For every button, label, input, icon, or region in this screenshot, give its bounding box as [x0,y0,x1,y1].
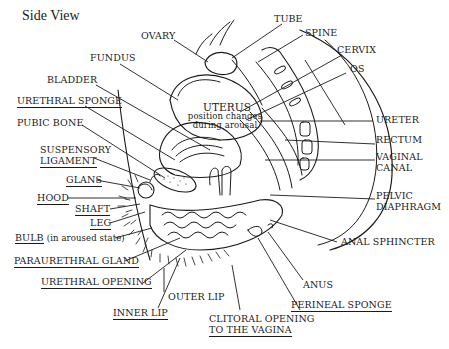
label-glans: GLANS [66,175,102,187]
label-spine: SPINE [305,28,337,39]
label-uterus-note-line2: during arousal [180,121,270,130]
label-clitoral-opening-line1: CLITORAL OPENING [209,314,314,325]
label-rectum: RECTUM [376,135,422,146]
label-outer-lip: OUTER LIP [168,292,225,303]
label-hood: HOOD [37,193,69,205]
label-inner-lip: INNER LIP [113,308,168,320]
label-pelvic-diaphragm-line2: DIAPHRAGM [376,202,441,213]
label-bladder: BLADDER [47,75,97,86]
label-urethral-sponge: URETHRAL SPONGE [17,96,122,108]
label-cervix: CERVIX [337,45,376,56]
label-leg: LEG [90,218,111,230]
anatomy-diagram: Side View OVARY TUBE SPINE CERVIX OS FUN… [0,0,449,349]
diagram-title: Side View [22,8,80,24]
label-os: OS [350,64,365,75]
label-paraurethral-gland: PARAURETHRAL GLAND [14,256,139,268]
label-clitoral-opening-line2: TO THE VAGINA [209,325,292,337]
label-anus: ANUS [303,280,333,291]
label-bulb-note: (in aroused state) [47,233,125,243]
label-pubic-bone: PUBIC BONE [17,118,83,129]
label-urethral-opening: URETHRAL OPENING [41,277,152,289]
label-vaginal-canal-line2: CANAL [376,163,412,174]
label-suspensory-ligament-line2: LIGAMENT [40,156,97,168]
label-fundus: FUNDUS [90,53,136,64]
label-ureter: URETER [376,115,419,126]
label-perineal-sponge: PERINEAL SPONGE [291,300,392,312]
label-tube: TUBE [274,14,303,25]
label-anal-sphincter: ANAL SPHINCTER [341,237,435,248]
label-bulb-text: BULB [15,232,44,244]
label-pelvic-diaphragm-line1: PELVIC [376,191,413,202]
label-bulb: BULB (in aroused state) [15,233,125,244]
label-ovary: OVARY [141,31,175,42]
label-suspensory-ligament-line1: SUSPENSORY [40,145,111,156]
label-vaginal-canal-line1: VAGINAL [376,152,423,163]
label-shaft: SHAFT [75,204,110,216]
